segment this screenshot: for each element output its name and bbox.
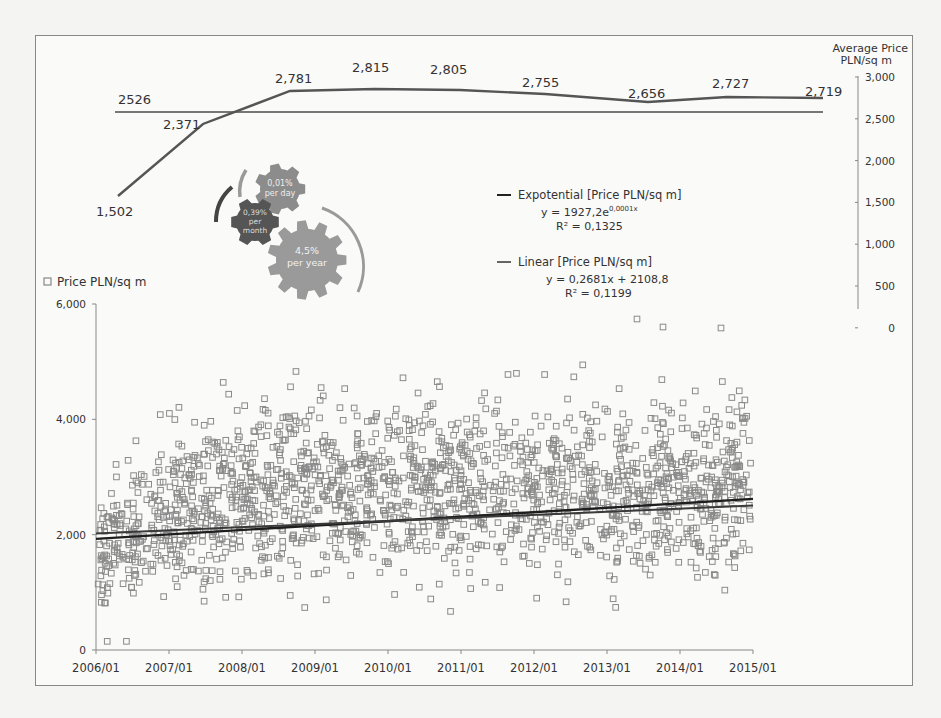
point-label-2011: 2,755 (522, 75, 559, 90)
right-axis-tick-label: 3,000 (865, 71, 895, 83)
right-axis-tick-label: 2,000 (865, 155, 895, 167)
arc-arrow-icon (240, 170, 246, 197)
exp-legend-label: Expotential [Price PLN/sq m] (518, 188, 682, 202)
x-axis-tick-label: 2013/01 (583, 661, 631, 675)
exp-r2: R² = 0,1325 (556, 220, 623, 233)
lin-r2: R² = 0,1199 (565, 287, 632, 300)
point-label-2014: 2,719 (805, 84, 842, 99)
x-axis-tick-label: 2014/01 (656, 661, 704, 675)
gear-month-value: 0,39% (243, 208, 267, 217)
scatter-legend-marker-icon (44, 278, 51, 285)
x-axis-tick-label: 2006/01 (72, 661, 120, 675)
right-axis-tick-label: 500 (875, 280, 895, 292)
gear-month-unit: per (249, 217, 262, 226)
x-axis-tick-label: 2007/01 (145, 661, 193, 675)
left-axis-tick-label: 0 (79, 644, 86, 656)
x-axis-tick-label: 2009/01 (291, 661, 339, 675)
right-axis-tick-label: 1,500 (865, 196, 895, 208)
right-axis-ticks: 3,0002,5002,0001,5001,0005000 (855, 71, 895, 334)
x-axis-tick-label: 2012/01 (510, 661, 558, 675)
left-axis-ticks: 6,0004,0002,0000 (56, 298, 96, 656)
gear-day-unit: per day (265, 189, 296, 198)
point-label-2012: 2,656 (628, 86, 665, 101)
scatter-legend-label: Price PLN/sq m (57, 275, 146, 289)
point-label-2008: 2,781 (275, 71, 312, 86)
point-label-2007: 2,371 (163, 117, 200, 132)
trendline-legend: Expotential [Price PLN/sq m] y = 1927,2e… (497, 188, 682, 300)
x-axis-tick-label: 2010/01 (364, 661, 412, 675)
lin-legend-label: Linear [Price PLN/sq m] (518, 255, 652, 269)
chart-canvas: 2526 1,502 2,371 2,781 2,815 2,805 2,755… (0, 0, 941, 718)
bottom-scatter-chart: Price PLN/sq m 6,0004,0002,0000 2006/012… (44, 275, 777, 675)
gear-day-value: 0,01% (267, 179, 293, 188)
scatter-points (95, 316, 753, 644)
growth-gears-infographic: 0,01% per day 0,39% per month 4,5% per y… (216, 163, 363, 299)
left-axis-tick-label: 6,000 (56, 298, 86, 310)
left-axis-tick-label: 4,000 (56, 413, 86, 425)
gear-year-unit: per year (287, 257, 327, 268)
point-label-2006: 1,502 (96, 204, 133, 219)
left-axis-tick-label: 2,000 (56, 529, 86, 541)
x-axis-tick-label: 2011/01 (437, 661, 485, 675)
average-reference-label: 2526 (118, 92, 151, 107)
right-axis-tick-label: 0 (888, 322, 895, 334)
right-axis-tick-label: 2,500 (865, 113, 895, 125)
top-line-chart: 2526 1,502 2,371 2,781 2,815 2,805 2,755… (96, 42, 908, 334)
right-axis-title-line2: PLN/sq m (840, 54, 892, 67)
right-axis-tick-label: 1,000 (865, 238, 895, 250)
gear-month-unit2: month (243, 226, 268, 235)
arc-arrow-icon (216, 187, 232, 222)
lin-equation: y = 0,2681x + 2108,8 (546, 273, 668, 286)
point-label-2010: 2,805 (430, 62, 467, 77)
x-axis-ticks: 2006/012007/012008/012009/012010/012011/… (72, 650, 777, 675)
gear-year-value: 4,5% (295, 245, 319, 256)
x-axis-tick-label: 2015/01 (729, 661, 777, 675)
average-price-line (118, 89, 823, 196)
x-axis-tick-label: 2008/01 (218, 661, 266, 675)
exp-equation: y = 1927,2e0,0001x (541, 205, 638, 219)
point-label-2009: 2,815 (352, 60, 389, 75)
point-label-2013: 2,727 (712, 76, 749, 91)
